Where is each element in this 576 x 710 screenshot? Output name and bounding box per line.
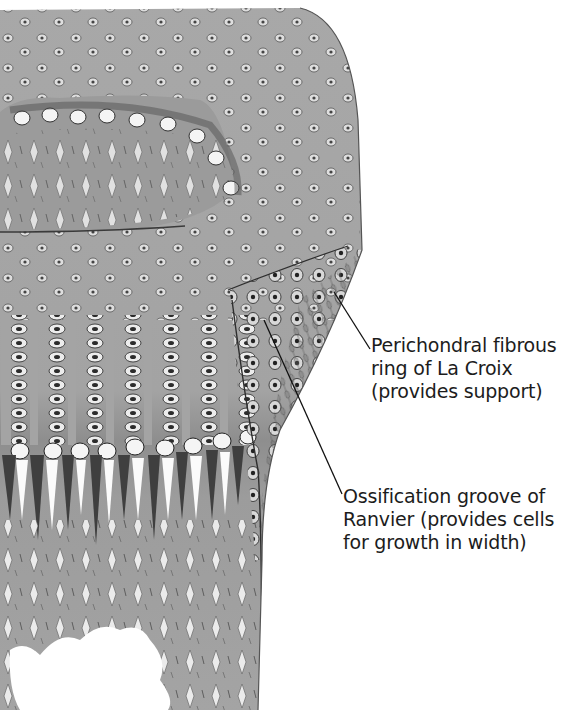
label-line: Ranvier (provides cells — [343, 508, 554, 531]
label-line: Ossification groove of — [343, 485, 554, 508]
leader-line-perichondral-ring — [334, 292, 370, 349]
label-perichondral-ring: Perichondral fibrous ring of La Croix (p… — [371, 334, 557, 403]
label-line: (provides support) — [371, 380, 557, 403]
label-line: ring of La Croix — [371, 357, 557, 380]
label-line: for growth in width) — [343, 531, 554, 554]
label-ossification-groove: Ossification groove of Ranvier (provides… — [343, 485, 554, 554]
label-line: Perichondral fibrous — [371, 334, 557, 357]
